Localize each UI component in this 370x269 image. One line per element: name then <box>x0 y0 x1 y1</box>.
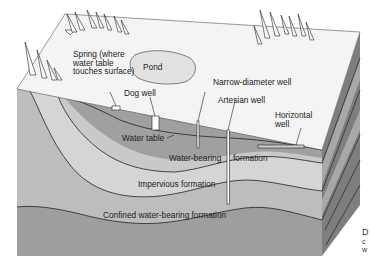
groundwater-block-diagram <box>0 0 370 269</box>
label-pond: Pond <box>143 63 162 72</box>
label-water-table: Water table <box>122 134 164 143</box>
label-water-bearing: Water-bearing <box>169 154 221 163</box>
caption-line-2: c <box>362 238 369 246</box>
label-narrow-diameter-well: Narrow-diameter well <box>213 78 291 87</box>
label-dog-well: Dog well <box>124 89 156 98</box>
narrow-diameter-well <box>197 121 199 148</box>
label-artesian-well: Artesian well <box>218 96 265 105</box>
horizontal-well <box>258 145 304 148</box>
caption-line-1: D <box>362 227 369 238</box>
artesian-well <box>227 130 230 204</box>
label-spring: Spring (where water table touches surfac… <box>73 50 135 76</box>
caption-line-3: w <box>362 246 369 254</box>
label-formation: formation <box>233 154 268 163</box>
caption-fragment: D c w <box>362 227 369 255</box>
label-confined-formation: Confined water-bearing formation <box>103 211 226 220</box>
label-horizontal-well: Horizontal well <box>275 111 320 128</box>
pond <box>130 51 195 84</box>
label-impervious-formation: Impervious formation <box>138 180 215 189</box>
spring-marker <box>112 106 120 110</box>
dog-well <box>152 116 159 130</box>
